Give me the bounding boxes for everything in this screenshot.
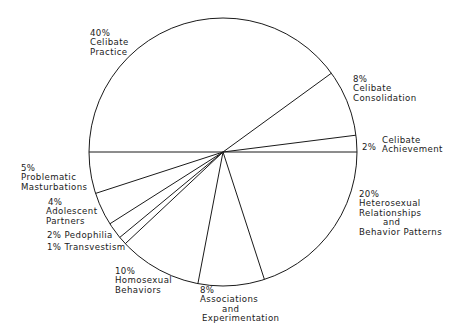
label-celibate-practice: 40% Celibate Practice: [90, 29, 129, 57]
label-celibate-consolidation: 8% Celibate Consolidation: [353, 75, 417, 103]
label-adolescent: 4% Adolescent Partners: [46, 198, 97, 226]
label-transvestism: 1% Transvestism: [47, 243, 126, 252]
label-homosexual: 10% Homosexual Behaviors: [115, 267, 172, 295]
label-masturbation: 5% Problematic Masturbations: [21, 164, 87, 192]
label-heterosexual: 20% Heterosexual Relationships and Behav…: [359, 190, 442, 237]
label-celibate-achievement: 2% Celibate Achievement: [362, 136, 443, 155]
label-associations: 8% Associations and Experimentation: [200, 286, 279, 324]
label-pedophilia: 2% Pedophilia: [47, 231, 113, 240]
